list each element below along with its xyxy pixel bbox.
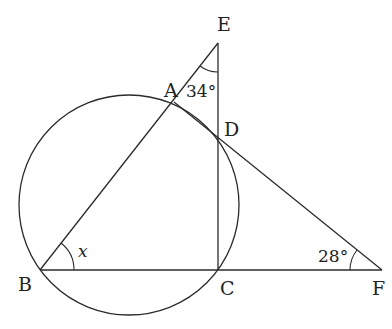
- line-AF: [174, 102, 382, 270]
- angle-label-B: x: [78, 241, 88, 261]
- point-label-A: A: [163, 79, 178, 101]
- angle-arc-E: [200, 66, 218, 72]
- point-label-F: F: [372, 277, 385, 299]
- geometry-diagram: E A D B C F 34° 28° x: [0, 0, 392, 329]
- point-label-B: B: [18, 273, 32, 295]
- point-label-C: C: [220, 277, 235, 299]
- line-BE: [40, 43, 218, 270]
- angle-arc-B: [61, 243, 74, 270]
- angle-arc-F: [350, 250, 357, 270]
- point-label-D: D: [224, 118, 239, 140]
- angle-label-E: 34°: [186, 81, 216, 101]
- point-label-E: E: [217, 13, 231, 35]
- angle-label-F: 28°: [318, 246, 348, 266]
